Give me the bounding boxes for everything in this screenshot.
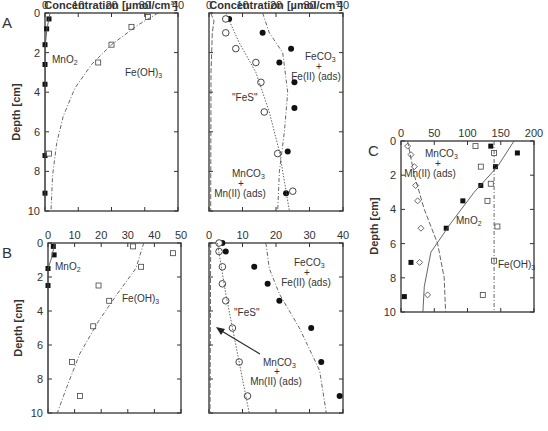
data-point <box>276 60 282 66</box>
model-curve <box>211 13 214 211</box>
x-tick-label: 0 <box>398 127 404 139</box>
data-point <box>285 149 291 155</box>
data-point <box>131 244 136 249</box>
y-tick-label: 4 <box>37 305 43 317</box>
y-tick-label: 2 <box>390 169 396 181</box>
label-mn-ads: Mn(II) (ads) <box>214 188 266 199</box>
label-mno2: MnO2 <box>52 54 78 66</box>
y-tick-label: 0 <box>390 135 396 147</box>
label-mno2: MnO2 <box>456 215 482 227</box>
y-tick-label: 4 <box>34 86 40 98</box>
data-point <box>515 150 520 155</box>
data-point <box>219 281 226 288</box>
data-point <box>223 249 229 255</box>
panel-label-c: C <box>368 142 379 159</box>
label-mnco3: MnCO3 <box>232 168 265 180</box>
label-fes: "FeS" <box>232 92 258 103</box>
data-point <box>288 46 294 52</box>
arrow <box>220 330 260 354</box>
y-tick-label: 8 <box>37 373 43 385</box>
data-point <box>216 240 223 247</box>
x-tick-label: 0 <box>45 229 51 241</box>
label-feoh3: Fe(OH)3 <box>122 293 159 305</box>
x-tick-label: 10 <box>236 229 248 241</box>
data-point <box>460 198 465 203</box>
panel-c <box>401 141 534 312</box>
data-point <box>91 324 96 329</box>
y-tick-label: 2 <box>37 271 43 283</box>
data-point <box>222 298 229 305</box>
panel-a-right <box>209 13 343 211</box>
data-point <box>291 105 297 111</box>
data-point <box>485 198 490 203</box>
data-point <box>258 79 265 86</box>
data-point <box>276 298 282 304</box>
model-curve <box>51 13 158 211</box>
label-feoh3: Fe(OH)3 <box>498 259 535 271</box>
y-tick-label: 2 <box>34 47 40 59</box>
x-tick-label: 50 <box>428 127 440 139</box>
model-curve <box>226 13 290 211</box>
x-tick-label: 200 <box>525 127 543 139</box>
data-point <box>289 188 296 195</box>
data-point <box>107 298 112 303</box>
x-tick-label: 40 <box>148 229 160 241</box>
x-tick-label: 20 <box>270 229 282 241</box>
y-tick-label: 0 <box>34 7 40 19</box>
data-point <box>415 198 421 204</box>
label-mnco3: MnCO3 <box>425 148 458 160</box>
data-point <box>488 181 493 186</box>
data-point <box>222 30 229 37</box>
y-tick-label: 10 <box>28 205 40 217</box>
x-tick-label: 0 <box>206 229 212 241</box>
y-tick-label: 6 <box>37 339 43 351</box>
x-tick-label: 40 <box>337 229 349 241</box>
y-axis-title: Depth [cm] <box>12 299 24 357</box>
x-axis-title: Concentration [µmol/cm³] <box>209 0 343 11</box>
data-point <box>337 393 343 399</box>
data-point <box>408 260 413 265</box>
label-fe-ads: Fe(II) (ads) <box>291 71 340 82</box>
plot-frame <box>209 13 343 211</box>
data-point <box>405 143 411 149</box>
data-point <box>96 60 101 65</box>
y-tick-label: 10 <box>384 306 396 318</box>
label-mn-ads: Mn(II) (ads) <box>250 376 302 387</box>
data-point <box>233 45 240 52</box>
model-curve <box>210 243 211 413</box>
y-tick-label: 8 <box>34 165 40 177</box>
label-fes: "FeS" <box>234 307 260 318</box>
panel-label-a: A <box>2 14 12 31</box>
x-tick-label: 20 <box>95 229 107 241</box>
model-curve <box>266 243 326 413</box>
x-axis-title: Concentration [µmol/cm³] <box>44 0 178 11</box>
data-point <box>216 248 223 255</box>
arrow-head-icon <box>216 327 225 335</box>
label-fe-ads: Fe(II) (ads) <box>281 277 330 288</box>
data-point <box>473 144 478 149</box>
data-point <box>219 264 226 271</box>
figure: 0102030400246810010203040010203040500246… <box>0 0 548 431</box>
y-tick-label: 8 <box>390 272 396 284</box>
y-tick-label: 6 <box>390 238 396 250</box>
label-mn-ads: Mn(II) (ads) <box>404 168 456 179</box>
data-point <box>171 251 176 256</box>
data-point <box>480 292 485 297</box>
y-axis-title: Depth [cm] <box>10 83 22 141</box>
x-tick-label: 150 <box>492 127 510 139</box>
data-point <box>139 264 144 269</box>
x-tick-label: 30 <box>303 229 315 241</box>
panel-a-left <box>43 13 179 211</box>
data-point <box>495 224 500 229</box>
label-mno2: MnO2 <box>55 261 81 273</box>
data-point <box>265 281 271 287</box>
data-point <box>260 30 266 36</box>
panel-label-b: B <box>2 244 12 261</box>
data-point <box>318 359 324 365</box>
data-point <box>253 59 260 66</box>
y-tick-label: 6 <box>34 126 40 138</box>
x-tick-label: 50 <box>175 229 187 241</box>
y-tick-label: 10 <box>31 407 43 419</box>
data-point <box>478 164 483 169</box>
y-tick-label: 4 <box>390 203 396 215</box>
